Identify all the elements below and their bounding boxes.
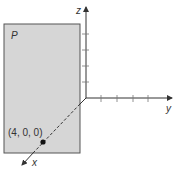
plane-label: P [11, 30, 18, 41]
y-axis-label: y [165, 103, 172, 114]
diagram-canvas: P z y x (4, 0, 0) [0, 0, 174, 172]
point-label: (4, 0, 0) [8, 127, 42, 138]
z-axis-label: z [75, 5, 81, 16]
point-4-0-0 [40, 139, 45, 144]
x-axis-solid-upper [80, 98, 86, 104]
x-axis-label: x [31, 157, 38, 168]
